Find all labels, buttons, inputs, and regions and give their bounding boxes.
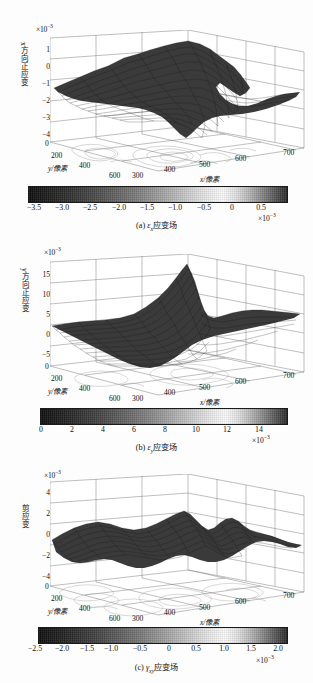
cb-tick-c-9: 2.0 (265, 644, 291, 653)
z-tick-b-3: 0 (38, 330, 50, 339)
z-tick-a-2: −1 (33, 79, 50, 88)
cb-tick-a-8: 0.5 (248, 203, 274, 212)
y-axis-label-a: y/像素 (48, 162, 67, 173)
caption-a: (a) εx应变场 (0, 218, 313, 232)
x-axis-label-c: x/像素 (200, 616, 219, 627)
caption-a-prefix: (a) (136, 221, 145, 230)
cb-tick-b-7: 14 (247, 425, 271, 434)
x-tick-a-4: 700 (283, 148, 294, 157)
panel-epsilon-y: ×10−3 y方向正应变 15 10 5 0 −5 (0, 232, 313, 458)
y-tick-a-0: 0 (45, 139, 49, 148)
caption-c: (c) γxy应变场 (0, 660, 313, 674)
cb-tick-c-8: 1.5 (238, 644, 264, 653)
z-tick-c-0: 4 (38, 488, 50, 497)
x-axis-label-a: x/像素 (200, 173, 219, 184)
caption-b-suffix: 应变场 (153, 443, 177, 452)
figure-three-strain-fields: ×10−3 x方向正应变 1 0 −1 −2 −3 −4 (0, 0, 313, 683)
z-tick-b-0: 15 (33, 270, 50, 279)
y-tick-a-2: 400 (79, 161, 90, 170)
x-tick-a-1: 400 (164, 165, 175, 174)
z-tick-b-4: −5 (33, 350, 50, 359)
z-tick-a-3: −2 (33, 96, 50, 105)
y-tick-b-0: 0 (45, 362, 49, 371)
cb-tick-c-7: 1.0 (211, 644, 237, 653)
cb-tick-c-5: 0 (159, 644, 179, 653)
y-tick-b-1: 200 (51, 374, 62, 383)
colorbar-b (40, 408, 288, 425)
x-tick-a-0: 300 (132, 171, 143, 180)
x-tick-b-4: 700 (283, 371, 294, 380)
z-tick-a-4: −3 (33, 113, 50, 122)
cb-tick-a-2: −2.5 (76, 203, 104, 212)
panel-gamma-xy: ×10−3 剪应变 4 2 0 −2 −4 (0, 458, 313, 683)
z-tick-c-2: 0 (38, 530, 50, 539)
z-tick-b-1: 10 (33, 290, 50, 299)
cb-tick-b-3: 6 (124, 425, 144, 434)
caption-c-suffix: 应变场 (154, 663, 178, 672)
caption-a-suffix: 应变场 (153, 221, 177, 230)
x-tick-b-2: 500 (199, 383, 210, 392)
x-axis-label-b: x/像素 (200, 396, 219, 407)
cb-tick-c-0: −2.5 (22, 644, 48, 653)
z-tick-c-3: −2 (33, 551, 50, 560)
colorbar-c (38, 627, 288, 644)
panel-epsilon-x: ×10−3 x方向正应变 1 0 −1 −2 −3 −4 (0, 0, 313, 232)
y-tick-c-0: 0 (45, 582, 49, 591)
z-tick-c-4: −4 (33, 572, 50, 581)
z-axis-label-b: y方向正应变 (19, 268, 30, 348)
x-tick-a-2: 500 (199, 160, 210, 169)
plot-canvas-c (50, 474, 306, 622)
z-axis-label-a: x方向正应变 (18, 42, 29, 122)
cb-tick-b-1: 2 (62, 425, 82, 434)
cb-tick-c-2: −1.5 (74, 644, 100, 653)
x-tick-c-4: 700 (283, 591, 294, 600)
z-tick-c-1: 2 (38, 509, 50, 518)
cb-tick-a-4: −1.5 (133, 203, 161, 212)
cb-tick-a-0: −3.5 (20, 203, 48, 212)
cb-tick-a-1: −3.0 (48, 203, 76, 212)
z-tick-a-0: 1 (38, 45, 50, 54)
y-tick-c-2: 400 (79, 604, 90, 613)
cb-tick-c-1: −2.0 (49, 644, 75, 653)
x-tick-b-0: 300 (132, 394, 143, 403)
y-tick-c-1: 200 (51, 594, 62, 603)
cb-tick-c-3: −1.0 (98, 644, 124, 653)
cb-tick-b-0: 0 (31, 425, 51, 434)
colorbar-a (28, 186, 288, 203)
cb-tick-a-5: −1.0 (161, 203, 189, 212)
cb-tick-c-4: −0.5 (127, 644, 153, 653)
x-tick-c-1: 400 (164, 608, 175, 617)
y-axis-label-b: y/像素 (48, 385, 67, 396)
plot-canvas-a (50, 30, 306, 175)
x-tick-c-0: 300 (132, 614, 143, 623)
z-tick-a-1: 0 (38, 62, 50, 71)
y-tick-b-2: 400 (79, 384, 90, 393)
x-tick-c-2: 500 (199, 603, 210, 612)
x-tick-b-3: 600 (235, 377, 246, 386)
cb-tick-b-2: 4 (93, 425, 113, 434)
caption-c-prefix: (c) (135, 663, 144, 672)
caption-b: (b) εy应变场 (0, 440, 313, 454)
cb-tick-b-5: 10 (184, 425, 208, 434)
z-tick-b-2: 5 (38, 310, 50, 319)
cb-tick-a-7: 0 (222, 203, 242, 212)
x-tick-b-1: 400 (164, 388, 175, 397)
y-tick-b-3: 600 (109, 394, 120, 403)
cb-tick-a-6: −0.5 (190, 203, 218, 212)
cb-tick-a-3: −2.0 (105, 203, 133, 212)
z-axis-label-c: 剪应变 (19, 504, 30, 552)
cb-tick-b-6: 12 (215, 425, 239, 434)
plot-canvas-b (50, 254, 306, 399)
y-tick-a-1: 200 (51, 151, 62, 160)
z-tick-a-5: −4 (33, 130, 50, 139)
cb-tick-c-6: 0.5 (183, 644, 209, 653)
y-axis-label-c: y/像素 (48, 605, 67, 616)
x-tick-c-3: 600 (235, 597, 246, 606)
cb-tick-b-4: 8 (155, 425, 175, 434)
caption-b-prefix: (b) (136, 443, 146, 452)
x-tick-a-3: 600 (235, 154, 246, 163)
y-tick-c-3: 600 (109, 614, 120, 623)
y-tick-a-3: 600 (109, 171, 120, 180)
